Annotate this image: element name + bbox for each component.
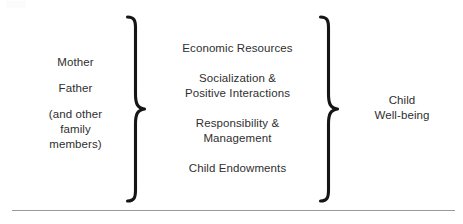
mediator-responsibility-line2: Management — [150, 131, 325, 146]
mediator-responsibility: Responsibility & Management — [150, 116, 325, 146]
conceptual-diagram: Mother Father (and other family members)… — [0, 0, 463, 224]
mediator-responsibility-line1: Responsibility & — [150, 116, 325, 131]
right-brace-icon — [315, 14, 341, 204]
bottom-divider — [12, 210, 455, 211]
inputs-column: Mother Father (and other family members) — [18, 55, 133, 152]
outcome-line-wellbeing: Well-being — [352, 108, 452, 123]
left-brace-icon — [122, 14, 148, 204]
mediator-economic-resources: Economic Resources — [150, 41, 325, 56]
mediator-child-endowments: Child Endowments — [150, 161, 325, 176]
mediator-child-endowments-line1: Child Endowments — [150, 161, 325, 176]
input-line-family: family — [18, 122, 133, 137]
mediator-socialization: Socialization & Positive Interactions — [150, 71, 325, 101]
input-line-and-other: (and other — [18, 107, 133, 122]
outcome-column: Child Well-being — [352, 93, 452, 123]
outcome-line-child: Child — [352, 93, 452, 108]
mediator-socialization-line2: Positive Interactions — [150, 86, 325, 101]
input-line-mother: Mother — [18, 55, 133, 70]
input-line-members: members) — [18, 137, 133, 152]
scan-artifact — [6, 1, 26, 8]
mediators-column: Economic Resources Socialization & Posit… — [150, 41, 325, 176]
mediator-economic-resources-line1: Economic Resources — [150, 41, 325, 56]
input-line-father: Father — [18, 81, 133, 96]
mediator-socialization-line1: Socialization & — [150, 71, 325, 86]
